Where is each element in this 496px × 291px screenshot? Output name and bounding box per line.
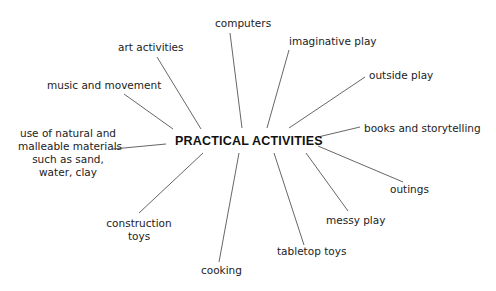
line-outings: [318, 146, 403, 182]
branch-computers: computers: [215, 17, 271, 30]
line-art-activities: [157, 57, 201, 129]
branch-construction-toys: construction toys: [103, 217, 175, 243]
branch-music-movement: music and movement: [47, 79, 161, 92]
branch-imaginative-play: imaginative play: [289, 35, 377, 48]
branch-natural-materials: use of natural and malleable materials s…: [18, 127, 118, 179]
branch-tabletop-toys: tabletop toys: [277, 245, 346, 258]
line-music-movement: [124, 94, 173, 129]
line-outside-play: [289, 77, 365, 128]
branch-cooking: cooking: [201, 264, 242, 277]
branch-outside-play: outside play: [369, 69, 433, 82]
line-cooking: [219, 153, 239, 262]
line-books: [318, 127, 360, 137]
branch-art-activities: art activities: [118, 41, 184, 54]
branch-outings: outings: [390, 183, 429, 196]
line-imaginative-play: [267, 50, 289, 128]
line-construction-toys: [139, 153, 203, 213]
branch-books-storytelling: books and storytelling: [364, 122, 481, 135]
line-computers: [230, 33, 242, 128]
line-messy-play: [306, 153, 348, 211]
central-concept: PRACTICAL ACTIVITIES: [175, 134, 323, 148]
spider-diagram: PRACTICAL ACTIVITIES computers imaginati…: [0, 0, 496, 291]
branch-messy-play: messy play: [326, 214, 385, 227]
line-tabletop-toys: [274, 153, 304, 245]
